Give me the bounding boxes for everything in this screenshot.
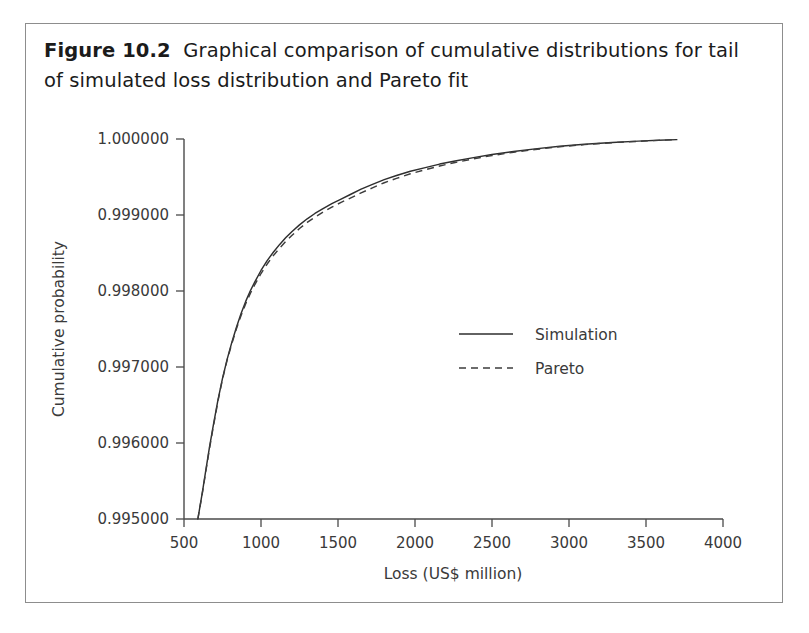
x-axis: 5001000150020002500300035004000 Loss (US… <box>170 519 742 583</box>
y-axis: 0.9950000.9960000.9970000.9980000.999000… <box>50 130 184 528</box>
y-tick-label: 0.999000 <box>97 206 169 224</box>
y-tick-label: 0.995000 <box>97 510 169 528</box>
x-axis-ticks <box>184 519 723 527</box>
cumulative-distribution-chart: 0.9950000.9960000.9970000.9980000.999000… <box>26 24 784 604</box>
x-tick-label: 3500 <box>627 534 665 552</box>
y-tick-label: 0.997000 <box>97 358 169 376</box>
x-axis-tick-labels: 5001000150020002500300035004000 <box>170 534 742 552</box>
y-tick-label: 0.996000 <box>97 434 169 452</box>
x-tick-label: 1500 <box>319 534 357 552</box>
x-tick-label: 1000 <box>242 534 280 552</box>
x-tick-label: 4000 <box>704 534 742 552</box>
x-tick-label: 2500 <box>473 534 511 552</box>
chart-legend: SimulationPareto <box>459 326 618 378</box>
y-tick-label: 1.000000 <box>97 130 169 148</box>
y-axis-tick-labels: 0.9950000.9960000.9970000.9980000.999000… <box>97 130 169 528</box>
x-axis-title: Loss (US$ million) <box>384 565 523 583</box>
figure-panel: Figure 10.2 Graphical comparison of cumu… <box>25 23 783 603</box>
legend-label-simulation: Simulation <box>535 326 618 344</box>
y-axis-title: Cumulative probability <box>50 241 68 417</box>
x-tick-label: 500 <box>170 534 199 552</box>
y-axis-ticks <box>176 139 184 519</box>
y-tick-label: 0.998000 <box>97 282 169 300</box>
x-tick-label: 2000 <box>396 534 434 552</box>
x-tick-label: 3000 <box>550 534 588 552</box>
chart-plot-area: 0.9950000.9960000.9970000.9980000.999000… <box>26 24 784 604</box>
legend-label-pareto: Pareto <box>535 360 584 378</box>
